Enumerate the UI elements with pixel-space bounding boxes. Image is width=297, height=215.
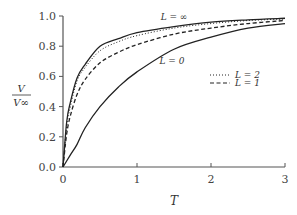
x-axis-label: T bbox=[170, 194, 179, 208]
series-line-0 bbox=[63, 18, 285, 167]
y-axis-label-denominator: V∞ bbox=[13, 97, 29, 108]
series-line-3 bbox=[63, 24, 285, 167]
x-tick-label: 0 bbox=[60, 173, 67, 186]
x-tick-label: 1 bbox=[134, 173, 141, 186]
y-axis-label-numerator: V bbox=[17, 83, 26, 94]
legend-label: L = 1 bbox=[234, 78, 260, 88]
annotation-l-zero: L = 0 bbox=[159, 56, 185, 66]
y-tick-label: 0.4 bbox=[39, 101, 57, 114]
y-tick-label: 0.0 bbox=[39, 161, 57, 174]
y-tick-label: 0.6 bbox=[39, 70, 57, 83]
y-tick-label: 1.0 bbox=[39, 10, 57, 23]
series-line-1 bbox=[63, 19, 285, 167]
series-line-2 bbox=[63, 21, 285, 167]
x-tick-label: 3 bbox=[282, 173, 289, 186]
annotation-l-infinity: L = ∞ bbox=[160, 12, 188, 22]
y-tick-label: 0.8 bbox=[39, 40, 57, 53]
y-tick-label: 0.2 bbox=[39, 131, 57, 144]
chart: 0.00.20.40.60.81.00123TVV∞L = ∞L = 0L = … bbox=[0, 0, 297, 215]
x-tick-label: 2 bbox=[208, 173, 215, 186]
